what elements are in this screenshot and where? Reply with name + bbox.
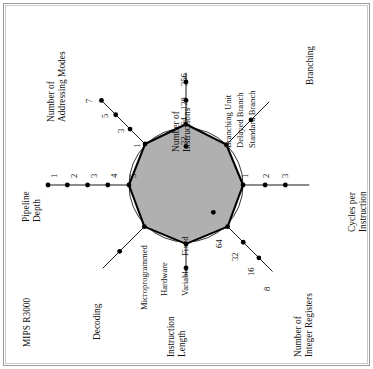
- axis-title-number-of-addressing-modes: Number of Addressing Modes: [46, 51, 67, 122]
- tick-label-instructions-256: 256: [180, 73, 189, 86]
- tick-label-pipeline-2: 2: [70, 174, 79, 178]
- axis-title-instruction-length: Instruction Length: [166, 316, 187, 357]
- tick-label-addressing-1: 1: [133, 144, 142, 148]
- tick-label-registers-32: 32: [231, 252, 240, 261]
- axis-tick-dot: [211, 210, 216, 215]
- axis-title-line: Instruction: [166, 316, 177, 357]
- tick-label-pipeline-5: 5: [129, 174, 138, 178]
- axis-title-pipeline-depth: Pipeline Depth: [21, 191, 42, 222]
- axis-tick-dot: [105, 183, 110, 188]
- axis-title-number-of-instructions: Number of Instructions: [171, 108, 192, 152]
- tick-label-pipeline-4: 4: [110, 174, 119, 178]
- axis-tick-dot: [241, 240, 246, 245]
- tick-label-registers-64: 64: [215, 239, 224, 248]
- tick-label-cpi-2: 2: [262, 174, 271, 178]
- tick-label-instruction-length-variable: Variable: [181, 267, 190, 296]
- tick-label-registers-16: 16: [247, 267, 256, 276]
- tick-label-standard-branch: Standard Branch: [248, 90, 257, 148]
- tick-label-cpi-3: 3: [281, 174, 290, 178]
- figure-container: Number of Instructions Branching Cycles …: [0, 0, 373, 369]
- tick-label-decoding-microprogrammed: Microprogrammed: [140, 245, 149, 310]
- tick-label-registers-8: 8: [263, 287, 272, 291]
- axis-tick-dot: [117, 249, 122, 254]
- axis-title-line: Decoding: [93, 304, 103, 340]
- axis-tick-dot: [113, 112, 118, 117]
- axis-title-line: Number of: [171, 108, 182, 152]
- axis-title-line: Depth: [32, 191, 43, 222]
- axis-tick-dot: [127, 183, 132, 188]
- axis-title-line: Instruction: [358, 191, 369, 232]
- axis-title-cycles-per-instruction: Cycles per Instruction: [347, 191, 368, 232]
- axis-tick-dot: [99, 98, 104, 103]
- axis-tick-dot: [283, 183, 288, 188]
- tick-label-cpi-1: 1: [241, 174, 250, 178]
- tick-label-addressing-7: 7: [85, 99, 94, 103]
- figure-title: MIPS R3000: [23, 298, 33, 347]
- axis-tick-dot: [128, 127, 133, 132]
- axis-title-line: Instructions: [182, 108, 193, 152]
- group-label-branching-unit: Branching Unit: [224, 95, 233, 148]
- tick-label-instruction-length-fixed: Fixed: [181, 236, 190, 256]
- tick-label-instructions-64: 64: [180, 117, 189, 126]
- tick-label-instructions-32: 32: [180, 136, 189, 145]
- tick-label-addressing-3: 3: [117, 129, 126, 133]
- axis-tick-dot: [256, 255, 261, 260]
- axis-tick-dot: [143, 142, 148, 147]
- axis-title-number-of-integer-registers: Number of Integer Registers: [293, 293, 314, 357]
- axis-tick-dot: [85, 183, 90, 188]
- axis-title-line: Number of: [293, 293, 304, 357]
- tick-label-pipeline-1: 1: [50, 174, 59, 178]
- axis-title-line: Addressing Modes: [57, 51, 68, 122]
- axis-title-branching: Branching: [306, 46, 316, 85]
- tick-label-pipeline-3: 3: [90, 174, 99, 178]
- axis-tick-dot: [225, 224, 230, 229]
- axis-title-line: Pipeline: [21, 191, 32, 222]
- axis-title-line: Length: [177, 316, 188, 357]
- axis-tick-dot: [46, 183, 51, 188]
- axis-tick-dot: [263, 183, 268, 188]
- axis-title-line: Branching: [306, 46, 316, 85]
- axis-title-line: Number of: [46, 51, 57, 122]
- axis-tick-dot: [65, 183, 70, 188]
- axis-title-decoding: Decoding: [93, 304, 103, 340]
- tick-label-addressing-5: 5: [101, 114, 110, 118]
- axis-title-line: Integer Registers: [304, 293, 315, 357]
- tick-label-decoding-hardware: Hardware: [160, 262, 169, 296]
- tick-label-instructions-128: 128: [180, 97, 189, 110]
- axis-tick-dot: [241, 183, 246, 188]
- tick-label-delayed-branch: Delayed Branch: [236, 92, 245, 148]
- axis-title-line: Cycles per: [347, 191, 358, 232]
- axis-tick-dot: [142, 224, 147, 229]
